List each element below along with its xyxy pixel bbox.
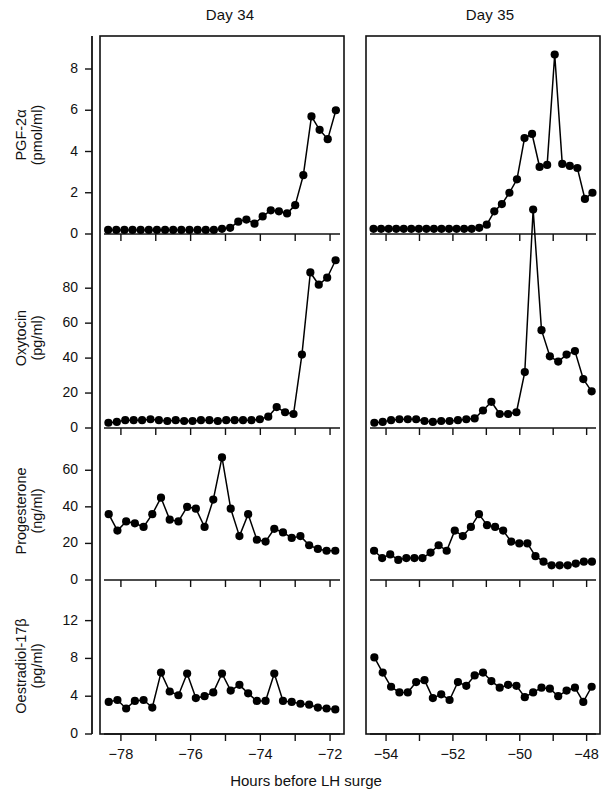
data-point [460,225,468,233]
data-point [539,558,547,566]
data-point [543,161,551,169]
plot-canvas [0,0,612,806]
y-axis-label-units-oxytocin: (pg/ml) [29,315,45,360]
data-point [454,678,462,686]
data-point [580,558,588,566]
x-tick-label-col1-6: −48 [557,746,612,762]
data-point [521,693,529,701]
data-point [418,554,426,562]
data-point [122,517,130,525]
data-point [120,226,128,234]
data-point [572,559,580,567]
data-point [288,698,296,706]
data-point [487,677,495,685]
data-point [218,225,226,233]
data-point [588,683,596,691]
data-point [387,683,395,691]
data-point [194,226,202,234]
data-point [512,408,520,416]
data-point [324,135,332,143]
data-point [394,556,402,564]
data-point [332,106,340,114]
data-point [566,162,574,170]
data-point [253,697,261,705]
data-point [385,225,393,233]
data-point [137,226,145,234]
series-pgf2a-day34 [104,106,340,234]
data-point [244,689,252,697]
data-point [155,416,163,424]
data-point [148,510,156,518]
figure-root: Day 34 Day 35 02468PGF-2α(pmol/ml)020406… [0,0,612,806]
data-point [209,688,217,696]
data-point [420,417,428,425]
data-point [573,164,581,172]
data-point [462,415,470,423]
data-point [379,418,387,426]
x-axis-title: Hours before LH surge [0,772,612,789]
data-point [471,671,479,679]
data-point [322,547,330,555]
data-point [531,552,539,560]
data-point [491,523,499,531]
data-point [192,694,200,702]
data-point [507,537,515,545]
data-point [145,226,153,234]
data-point [331,256,339,264]
data-point [429,418,437,426]
data-point [296,700,304,708]
data-point [468,225,476,233]
data-point [490,207,498,215]
data-point [528,130,536,138]
data-point [247,416,255,424]
series-line [374,55,593,229]
data-point [279,697,287,705]
data-point [479,406,487,414]
data-point [105,510,113,518]
data-point [562,686,570,694]
data-point [259,212,267,220]
data-point [138,416,146,424]
data-point [131,697,139,705]
data-point [128,226,136,234]
x-tick-label-col0-4: −74 [230,746,290,762]
data-point [218,669,226,677]
data-point [157,668,165,676]
data-point [242,215,250,223]
data-point [512,682,520,690]
data-point [554,692,562,700]
data-point [314,545,322,553]
data-point [370,419,378,427]
data-point [161,226,169,234]
data-point [496,410,504,418]
data-point [122,704,130,712]
data-point [471,414,479,422]
data-point [104,226,112,234]
data-point [113,527,121,535]
data-point [209,495,217,503]
data-point [222,416,230,424]
data-point [275,207,283,215]
data-point [475,510,483,518]
data-point [395,415,403,423]
y-axis-label-name-oxytocin: Oxytocin [13,310,29,366]
data-point [537,684,545,692]
data-point [139,523,147,531]
data-point [370,547,378,555]
data-point [113,696,121,704]
data-point [467,523,475,531]
y-tick-label-pgf2a-0: 0 [44,225,78,241]
data-point [554,357,562,365]
series-oestradiol-day35 [370,653,595,706]
data-point [105,698,113,706]
data-point [281,408,289,416]
data-point [513,175,521,183]
data-point [521,368,529,376]
data-point [437,690,445,698]
data-point [452,225,460,233]
data-point [443,547,451,555]
data-point [445,225,453,233]
data-point [588,387,596,395]
data-point [267,206,275,214]
data-point [546,352,554,360]
